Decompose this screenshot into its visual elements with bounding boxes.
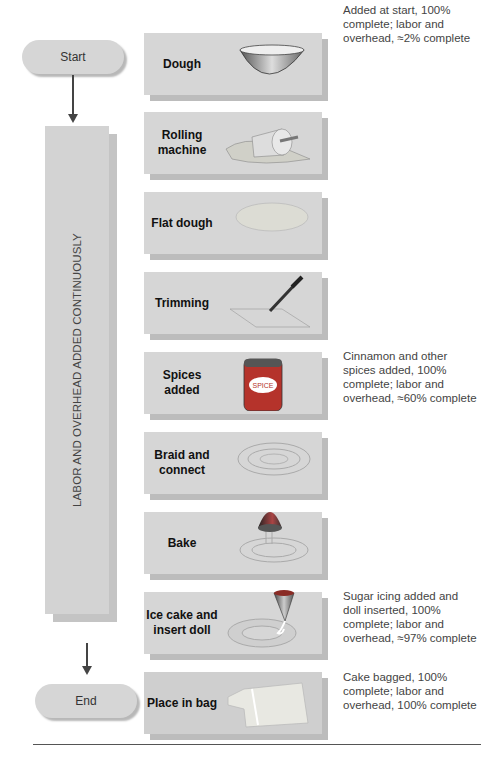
step-label: Bake [144, 512, 220, 574]
step-place-in-bag: Place in bag [144, 672, 322, 734]
start-terminal: Start [22, 40, 124, 74]
end-arrow-head [82, 666, 92, 675]
step-flat-dough: Flat dough [144, 192, 322, 254]
bowl-icon [222, 36, 312, 92]
step-label: Flat dough [144, 192, 220, 254]
knife-icon [222, 275, 312, 331]
note-spices: Cinnamon and other spices added, 100% co… [343, 349, 478, 405]
step-label: Braid and connect [144, 432, 220, 494]
step-rolling-machine: Rolling machine [144, 112, 322, 174]
svg-text:SPICE: SPICE [252, 382, 273, 389]
start-arrow-head [68, 114, 78, 123]
labor-overhead-label: LABOR AND OVERHEAD ADDED CONTINUOUSLY [71, 233, 83, 507]
oven-cover-icon [222, 494, 312, 570]
end-terminal: End [35, 684, 137, 718]
step-bake: Bake [144, 512, 322, 574]
step-spices-added: Spices added SPICE [144, 352, 322, 414]
step-ice-cake-insert-doll: Ice cake and insert doll [144, 592, 322, 654]
start-arrow [72, 75, 74, 115]
bag-icon [222, 675, 312, 731]
start-label: Start [60, 50, 85, 64]
bottom-rule [33, 744, 481, 745]
step-label: Spices added [144, 352, 220, 414]
note-icing: Sugar icing added and doll inserted, 100… [343, 589, 478, 645]
step-braid-and-connect: Braid and connect [144, 432, 322, 494]
step-label: Dough [144, 33, 220, 95]
step-label: Rolling machine [144, 112, 220, 174]
braid-icon [222, 435, 312, 491]
note-dough: Added at start, 100% complete; labor and… [343, 3, 478, 45]
end-arrow [86, 643, 88, 667]
step-dough: Dough [144, 33, 322, 95]
note-bag: Cake bagged, 100% complete; labor and ov… [343, 670, 478, 712]
labor-overhead-bar: LABOR AND OVERHEAD ADDED CONTINUOUSLY [45, 126, 109, 614]
step-label: Trimming [144, 272, 220, 334]
step-trimming: Trimming [144, 272, 322, 334]
step-label: Place in bag [144, 672, 220, 734]
end-label: End [75, 694, 96, 708]
icing-funnel-icon [222, 584, 312, 650]
step-label: Ice cake and insert doll [144, 592, 220, 654]
spice-can-icon: SPICE [222, 355, 312, 411]
rolling-pin-icon [222, 115, 312, 171]
flat-dough-icon [222, 195, 312, 251]
